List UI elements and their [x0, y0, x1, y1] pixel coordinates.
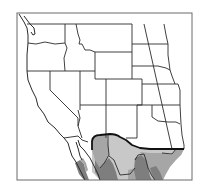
- baja-inner: [76, 142, 82, 160]
- border-east-edge: [180, 105, 184, 149]
- border-wa-or: [28, 42, 65, 44]
- border-id-mt: [76, 24, 95, 52]
- border-ks-mo: [178, 84, 180, 105]
- border-wy: [95, 24, 132, 79]
- border-nm-tx: [126, 105, 137, 138]
- border-us-mexico-west: [64, 136, 88, 142]
- border-ca-nv: [50, 71, 78, 126]
- border-sd-ne: [132, 66, 170, 70]
- border-co-ne: [132, 79, 142, 105]
- border-wa-id: [64, 24, 67, 71]
- pacific-coastline: [19, 14, 85, 180]
- border-east-dakotas: [164, 24, 175, 84]
- border-az-ca: [78, 110, 82, 138]
- range-map: [0, 0, 200, 193]
